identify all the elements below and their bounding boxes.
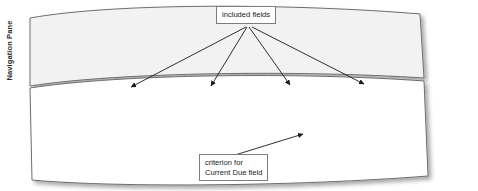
row-label-or: or: xyxy=(77,146,85,153)
cell-table[interactable]: Account xyxy=(182,103,206,110)
cell-table[interactable]: Account xyxy=(271,103,295,110)
text-cursor-ibeam: I xyxy=(377,122,380,132)
check-icon: ✓ xyxy=(220,123,226,130)
splitter-controls[interactable] xyxy=(41,64,63,73)
cell-field[interactable]: Current Due xyxy=(360,92,396,99)
callout-criterion: criterion for Current Due field xyxy=(199,154,268,181)
field-list-title: Account Manager ... xyxy=(69,12,189,19)
row-label-show: Show: xyxy=(67,124,85,131)
row-label-criteria: Criteria: xyxy=(62,135,85,142)
splitter-handle-box[interactable] xyxy=(49,64,63,73)
callout-included-fields-text: included fields xyxy=(222,10,270,19)
callout-criterion-line2: Current Due field xyxy=(205,168,262,178)
show-checkbox[interactable]: ✓ xyxy=(130,124,137,131)
grid-column-divider[interactable] xyxy=(356,89,357,167)
grid-line xyxy=(89,133,439,134)
show-checkbox[interactable]: ✓ xyxy=(219,124,226,131)
cell-field[interactable]: Account Number xyxy=(93,92,142,99)
callout-criterion-line1: criterion for xyxy=(205,158,262,168)
cell-field[interactable]: Amount Paid xyxy=(271,92,309,99)
navigation-pane-label: Navigation Pane xyxy=(5,10,14,92)
cell-field[interactable]: Account Name xyxy=(182,92,225,99)
check-icon: ✓ xyxy=(131,123,137,130)
field-list-box[interactable] xyxy=(103,16,196,42)
show-checkbox[interactable]: ✓ xyxy=(308,124,315,131)
cell-table[interactable]: Account xyxy=(360,103,384,110)
qbe-row-labels: Field: Table: Sort: Show: Criteria: or: xyxy=(36,88,88,166)
grid-line xyxy=(89,122,439,123)
collapse-left-arrow-icon[interactable] xyxy=(41,64,48,73)
row-label-sort: Sort: xyxy=(71,113,85,120)
grid-line xyxy=(89,144,439,145)
check-icon: ✓ xyxy=(398,123,404,130)
callout-included-fields: included fields xyxy=(216,6,276,24)
row-label-table: Table: xyxy=(67,102,85,109)
row-label-field: Field: xyxy=(69,91,85,98)
screenshot-root: Account Manager ... Navigation Pane Fiel… xyxy=(0,0,478,191)
cell-table[interactable]: Account xyxy=(93,103,117,110)
grid-line xyxy=(89,111,439,112)
grid-column-divider[interactable] xyxy=(178,89,179,167)
triangle-left-icon xyxy=(43,67,46,71)
check-icon: ✓ xyxy=(309,123,315,130)
show-checkbox[interactable]: ✓ xyxy=(397,124,404,131)
grid-line xyxy=(89,100,439,101)
criteria-value-current-due[interactable]: d xyxy=(361,126,365,133)
